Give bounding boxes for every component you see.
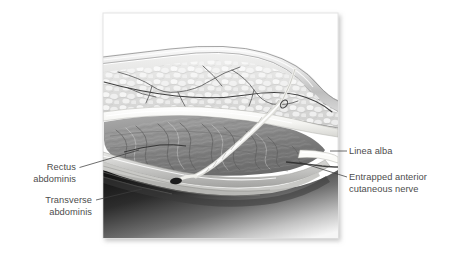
- label-rectus-abdominis-line1: Rectus: [47, 162, 77, 172]
- label-linea-alba: Linea alba: [349, 146, 393, 156]
- label-linea-alba-line1: Linea alba: [349, 146, 393, 156]
- label-entrapped-nerve: Entrapped anterior cutaneous nerve: [349, 172, 427, 194]
- label-rectus-abdominis-line2: abdominis: [33, 174, 76, 184]
- label-transverse-abdominis-line2: abdominis: [49, 207, 92, 217]
- label-transverse-abdominis-line1: Transverse: [45, 195, 92, 205]
- illustration-layers: [98, 45, 344, 238]
- anatomy-illustration: Rectus abdominis Transverse abdominis Li…: [0, 0, 456, 255]
- label-rectus-abdominis: Rectus abdominis: [33, 162, 76, 184]
- figure-container: Rectus abdominis Transverse abdominis Li…: [0, 0, 456, 255]
- label-entrapped-nerve-line2: cutaneous nerve: [349, 184, 419, 194]
- label-transverse-abdominis: Transverse abdominis: [45, 195, 92, 217]
- label-entrapped-nerve-line1: Entrapped anterior: [349, 172, 427, 182]
